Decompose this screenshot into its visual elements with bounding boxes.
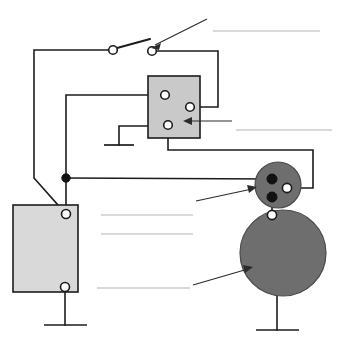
- relay-terminal-right[interactable]: [186, 103, 195, 112]
- starter-motor-body: [240, 210, 326, 296]
- wire-switch-to-battery: [34, 50, 109, 214]
- wire-relay-to-ground: [119, 126, 148, 145]
- ignition-switch[interactable]: [109, 39, 157, 55]
- leader-line-solenoid: [196, 189, 252, 201]
- solenoid-terminal-motor[interactable]: [267, 192, 277, 202]
- motor-terminal-top[interactable]: [267, 210, 276, 219]
- wire-junction-to-solenoid: [66, 178, 272, 179]
- switch-lever[interactable]: [117, 39, 150, 48]
- leader-line-motor: [193, 269, 248, 285]
- relay-terminal-upper-left[interactable]: [161, 91, 170, 100]
- solenoid-terminal-control[interactable]: [282, 183, 291, 192]
- starter-solenoid-body: [255, 162, 301, 208]
- leader-line-switch: [155, 19, 207, 45]
- battery-terminal-negative[interactable]: [61, 283, 70, 292]
- wire-junction: [62, 174, 70, 182]
- circuit-diagram: [0, 0, 346, 346]
- starter-solenoid: [255, 162, 301, 208]
- switch-terminal-left[interactable]: [109, 46, 118, 55]
- wire-relay-to-junction: [66, 95, 161, 178]
- starter-motor: [240, 210, 326, 296]
- schematic-canvas: [0, 0, 346, 346]
- relay-terminal-lower-left[interactable]: [164, 121, 173, 130]
- battery-terminal-positive[interactable]: [62, 210, 71, 219]
- solenoid-terminal-battery[interactable]: [267, 174, 277, 184]
